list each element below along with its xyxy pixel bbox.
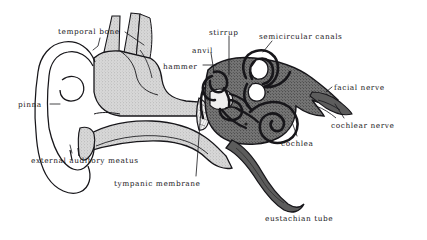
label-eustachian-tube: eustachian tube xyxy=(265,215,333,222)
eustachian-tube xyxy=(226,140,304,212)
leader-temporal-bone xyxy=(93,38,100,50)
label-tympanic-membrane: tympanic membrane xyxy=(114,180,200,187)
label-pinna: pinna xyxy=(18,101,42,108)
label-stirrup: stirrup xyxy=(209,29,239,36)
pinna-outline xyxy=(35,42,95,194)
label-temporal-bone: temporal bone xyxy=(58,28,120,35)
label-external-auditory-meatus: external auditory meatus xyxy=(31,157,139,164)
label-cochlea: cochlea xyxy=(281,140,313,147)
label-hammer: hammer xyxy=(163,63,197,70)
label-semicircular-canals: semicircular canals xyxy=(259,33,342,40)
label-anvil: anvil xyxy=(192,47,213,54)
label-facial-nerve: facial nerve xyxy=(334,84,385,91)
inner-ear-mass xyxy=(205,50,352,144)
ear-anatomy-figure: temporal bonepinnaexternal auditory meat… xyxy=(0,0,427,240)
label-cochlear-nerve: cochlear nerve xyxy=(331,122,394,129)
